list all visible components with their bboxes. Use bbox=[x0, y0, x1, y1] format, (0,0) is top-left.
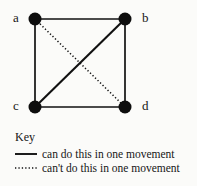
key-entry-dotted: can't do this in one movement bbox=[15, 161, 180, 175]
key-title: Key bbox=[15, 131, 35, 144]
node-label-b: b bbox=[142, 11, 149, 24]
dotted-line-swatch-icon bbox=[15, 163, 37, 173]
key-entry-solid: can do this in one movement bbox=[15, 147, 175, 161]
graph-diagram bbox=[0, 0, 197, 130]
node-b bbox=[119, 13, 132, 26]
node-c bbox=[29, 101, 42, 114]
node-label-d: d bbox=[142, 99, 149, 112]
key-entry-solid-label: can do this in one movement bbox=[42, 148, 175, 160]
node-d bbox=[119, 101, 132, 114]
key-entry-dotted-label: can't do this in one movement bbox=[42, 162, 180, 174]
solid-line-swatch-icon bbox=[15, 149, 37, 159]
node-label-a: a bbox=[13, 11, 19, 24]
node-label-c: c bbox=[13, 99, 19, 112]
node-a bbox=[29, 13, 42, 26]
figure-canvas: a b c d Key can do this in one movement … bbox=[0, 0, 197, 186]
